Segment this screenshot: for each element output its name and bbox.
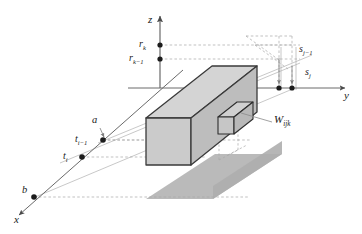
tick-dot-t-i xyxy=(79,154,85,160)
axis-label-z: z xyxy=(148,14,152,25)
tick-label-t-i-minus-1: ti−1 xyxy=(75,134,87,147)
diagram-canvas xyxy=(0,0,362,234)
axis-label-x: x xyxy=(14,214,19,225)
point-label-a: a xyxy=(92,115,97,126)
tick-label-s-j: sj xyxy=(305,67,311,80)
voxel-label-w-ijk: Wijk xyxy=(274,114,290,128)
tick-label-t-i: ti xyxy=(63,151,68,164)
tick-dot-r-k-1 xyxy=(157,56,162,61)
tick-label-r-k: rk xyxy=(139,39,146,52)
point-label-b: b xyxy=(22,185,27,196)
a-point-arrow xyxy=(100,128,104,137)
voxel-grid-diagram: z y x rk rk−1 sj−1 sj ti−1 ti a b Wijk xyxy=(0,0,362,234)
tick-dot-t-i-1 xyxy=(100,137,106,143)
tick-dot-r-k xyxy=(157,42,162,47)
tick-dot-s-j xyxy=(289,85,294,90)
point-dot-b xyxy=(31,194,37,200)
tick-dot-s-j-1 xyxy=(276,85,281,90)
axis-label-y: y xyxy=(344,90,349,101)
tick-label-r-k-minus-1: rk−1 xyxy=(129,53,144,66)
tick-label-s-j-minus-1: sj−1 xyxy=(299,44,313,57)
